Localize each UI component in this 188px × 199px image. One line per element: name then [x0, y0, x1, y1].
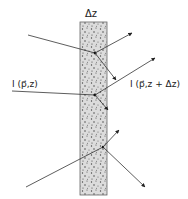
incident-intensity-label: I (p⃗,z) — [12, 80, 38, 89]
slab-thickness-label: Δz — [85, 9, 97, 19]
transmitted-intensity-label: I (p⃗,z + Δz) — [130, 80, 180, 89]
scattering-slab-diagram — [0, 0, 188, 199]
scattering-slab — [80, 22, 107, 195]
ray-bottom-scatter-down — [103, 147, 145, 187]
